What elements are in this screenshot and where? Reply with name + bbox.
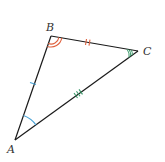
triangle-diagram: A B C [0,0,165,162]
vertex-label-b: B [45,21,54,34]
side-ab [15,36,51,140]
vertex-label-a: A [6,143,15,156]
angle-a-arc-icon [24,116,37,126]
vertex-label-c: C [143,45,152,58]
side-ac [15,51,138,140]
side-bc [51,36,138,51]
